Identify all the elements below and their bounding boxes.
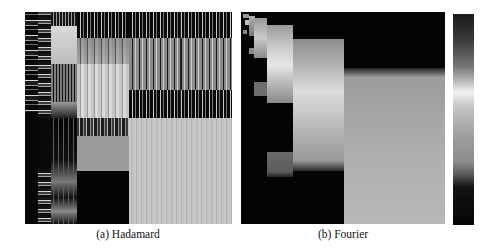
caption-fourier: (b) Fourier — [318, 228, 368, 240]
caption-hadamard: (a) Hadamard — [96, 228, 160, 240]
block-b3 — [293, 39, 344, 171]
fragment-4 — [243, 30, 247, 34]
block-col2-light — [51, 26, 77, 64]
block-col2-mid — [51, 102, 77, 118]
block-col4-bottom — [129, 118, 232, 224]
hadamard-heatmap — [25, 12, 232, 224]
block-col3-top — [77, 12, 129, 38]
block-col2-top — [51, 12, 77, 26]
block-b2 — [267, 25, 293, 103]
block-col3-gray — [77, 136, 129, 171]
block-col3-midstripe — [77, 118, 129, 136]
block-col1-dark — [38, 118, 51, 168]
block-col2-stripe — [51, 64, 77, 102]
block-col2-dark — [51, 118, 77, 224]
block-col3-light1 — [77, 38, 129, 64]
block-col3-light2 — [77, 64, 129, 118]
block-b4 — [344, 68, 445, 224]
fourier-heatmap — [241, 12, 445, 224]
block-divider — [180, 12, 181, 118]
block-b1 — [254, 18, 267, 58]
block-col3-black — [77, 171, 129, 224]
block-col0-bottom — [25, 112, 38, 224]
block-b1-small — [254, 82, 267, 96]
colorbar — [453, 14, 474, 225]
block-b2-small — [267, 152, 293, 177]
